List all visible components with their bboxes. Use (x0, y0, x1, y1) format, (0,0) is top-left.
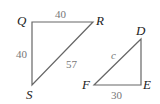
side-qs-label: 40 (16, 48, 28, 60)
vertex-r-label: R (95, 13, 104, 28)
vertex-s-label: S (26, 87, 33, 102)
triangle-qrs: Q R S 40 40 57 (16, 8, 104, 102)
triangles-svg: Q R S 40 40 57 D E F c 30 (0, 0, 160, 104)
triangle-def-shape (94, 39, 141, 85)
triangle-def: D E F c 30 (81, 23, 151, 101)
side-fe-label: 30 (111, 89, 123, 101)
side-qr-label: 40 (55, 8, 67, 20)
side-df-label: c (111, 49, 116, 61)
vertex-d-label: D (135, 23, 146, 38)
vertex-q-label: Q (17, 13, 27, 28)
side-rs-label: 57 (66, 58, 78, 70)
vertex-f-label: F (81, 77, 91, 92)
triangle-qrs-shape (32, 22, 93, 85)
diagram: Q R S 40 40 57 D E F c 30 (0, 0, 160, 104)
vertex-e-label: E (142, 77, 151, 92)
